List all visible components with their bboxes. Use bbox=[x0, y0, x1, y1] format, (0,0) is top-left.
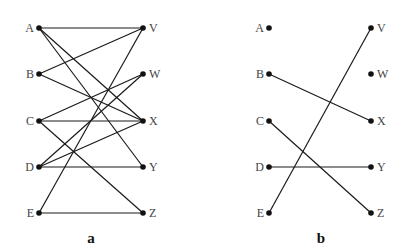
bipartite-graph-figure: ABCDEVWXYZ a ABCDEVWXYZ b bbox=[0, 0, 394, 248]
node-z-label: Z bbox=[377, 206, 384, 220]
node-e-dot bbox=[36, 210, 42, 216]
node-w-label: W bbox=[149, 67, 161, 81]
node-a-dot bbox=[36, 25, 42, 31]
edge-b-v bbox=[39, 28, 143, 74]
node-d-label: D bbox=[25, 160, 34, 174]
node-z-label: Z bbox=[149, 206, 156, 220]
node-z-dot bbox=[368, 210, 374, 216]
node-y-label: Y bbox=[149, 160, 158, 174]
node-a-label: A bbox=[25, 21, 34, 35]
node-x-dot bbox=[368, 118, 374, 124]
node-b-label: B bbox=[256, 67, 264, 81]
diagram-b: ABCDEVWXYZ b bbox=[255, 21, 389, 246]
node-a-dot bbox=[266, 25, 272, 31]
node-b-label: B bbox=[26, 67, 34, 81]
node-c-dot bbox=[36, 118, 42, 124]
node-w-label: W bbox=[377, 67, 389, 81]
node-x-dot bbox=[140, 118, 146, 124]
node-c-label: C bbox=[26, 114, 34, 128]
node-y-dot bbox=[368, 164, 374, 170]
node-d-dot bbox=[266, 164, 272, 170]
diagram-b-nodes: ABCDEVWXYZ bbox=[255, 21, 389, 220]
node-v-label: V bbox=[149, 21, 158, 35]
node-v-dot bbox=[140, 25, 146, 31]
node-y-dot bbox=[140, 164, 146, 170]
edge-a-x bbox=[39, 28, 143, 121]
diagram-a: ABCDEVWXYZ a bbox=[25, 21, 161, 246]
node-b-dot bbox=[266, 71, 272, 77]
node-x-label: X bbox=[149, 114, 158, 128]
edge-d-x bbox=[39, 121, 143, 167]
edge-e-v bbox=[269, 28, 371, 213]
diagram-a-edges bbox=[39, 28, 143, 213]
node-e-label: E bbox=[27, 206, 34, 220]
node-v-dot bbox=[368, 25, 374, 31]
node-e-label: E bbox=[257, 206, 264, 220]
node-e-dot bbox=[266, 210, 272, 216]
node-b-dot bbox=[36, 71, 42, 77]
node-c-label: C bbox=[256, 114, 264, 128]
diagram-b-caption: b bbox=[317, 230, 325, 246]
diagram-b-edges bbox=[269, 28, 371, 213]
node-x-label: X bbox=[377, 114, 386, 128]
node-d-label: D bbox=[255, 160, 264, 174]
node-d-dot bbox=[36, 164, 42, 170]
edge-b-x bbox=[269, 74, 371, 121]
diagram-a-caption: a bbox=[87, 230, 95, 246]
node-w-dot bbox=[368, 71, 374, 77]
node-c-dot bbox=[266, 118, 272, 124]
node-v-label: V bbox=[377, 21, 386, 35]
node-z-dot bbox=[140, 210, 146, 216]
node-a-label: A bbox=[255, 21, 264, 35]
node-y-label: Y bbox=[377, 160, 386, 174]
node-w-dot bbox=[140, 71, 146, 77]
